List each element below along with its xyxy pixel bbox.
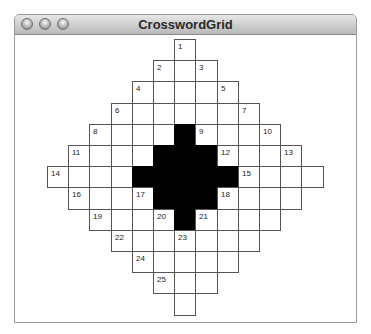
clue-number: 24 (136, 254, 145, 263)
grid-cell[interactable] (174, 293, 196, 316)
grid-cell[interactable] (174, 251, 196, 273)
grid-cell[interactable] (301, 166, 324, 188)
black-cell (217, 166, 239, 188)
clue-number: 16 (72, 190, 81, 199)
grid-cell[interactable] (238, 124, 260, 146)
clue-number: 15 (242, 169, 251, 178)
grid-cell[interactable] (153, 251, 175, 273)
grid-cell[interactable]: 9 (195, 124, 218, 146)
grid-cell[interactable] (238, 145, 260, 167)
grid-cell[interactable]: 1 (174, 39, 196, 61)
grid-cell[interactable] (280, 166, 302, 188)
grid-cell[interactable] (238, 230, 260, 252)
grid-cell[interactable]: 10 (259, 124, 281, 146)
clue-number: 25 (157, 275, 166, 284)
grid-cell[interactable] (259, 145, 281, 167)
grid-cell[interactable] (132, 124, 154, 146)
grid-cell[interactable] (195, 81, 218, 104)
grid-cell[interactable] (217, 251, 239, 273)
clue-number: 21 (199, 212, 208, 221)
clue-number: 11 (72, 148, 80, 157)
clue-number: 8 (93, 127, 97, 136)
grid-cell[interactable] (132, 230, 154, 252)
grid-cell[interactable]: 6 (111, 103, 133, 125)
grid-cell[interactable]: 25 (153, 272, 175, 294)
grid-cell[interactable]: 5 (217, 81, 239, 104)
grid-cell[interactable] (174, 81, 196, 104)
grid-cell[interactable]: 18 (217, 187, 239, 210)
grid-cell[interactable]: 23 (174, 230, 196, 252)
grid-cell[interactable] (111, 166, 133, 188)
clue-number: 6 (115, 106, 119, 115)
grid-cell[interactable] (132, 103, 154, 125)
title-bar[interactable]: CrosswordGrid (15, 15, 356, 35)
grid-cell[interactable] (89, 166, 112, 188)
grid-cell[interactable] (259, 187, 281, 210)
grid-cell[interactable]: 20 (153, 209, 175, 231)
black-cell (132, 166, 154, 188)
grid-cell[interactable] (153, 81, 175, 104)
grid-cell[interactable] (111, 209, 133, 231)
grid-cell[interactable] (259, 166, 281, 188)
grid-cell[interactable] (217, 124, 239, 146)
clue-number: 5 (221, 84, 225, 93)
grid-cell[interactable] (238, 187, 260, 210)
grid-cell[interactable] (89, 145, 112, 167)
grid-cell[interactable] (132, 145, 154, 167)
clue-number: 13 (284, 148, 293, 157)
grid-cell[interactable] (195, 230, 218, 252)
clue-number: 4 (136, 84, 140, 93)
grid-cell[interactable]: 7 (238, 103, 260, 125)
grid-cell[interactable]: 22 (111, 230, 133, 252)
black-cell (195, 166, 218, 188)
grid-cell[interactable] (89, 187, 112, 210)
clue-number: 10 (263, 127, 272, 136)
grid-cell[interactable]: 8 (89, 124, 112, 146)
grid-cell[interactable]: 3 (195, 60, 218, 82)
grid-cell[interactable] (111, 124, 133, 146)
grid-cell[interactable] (195, 103, 218, 125)
grid-cell[interactable]: 15 (238, 166, 260, 188)
grid-cell[interactable] (174, 60, 196, 82)
clue-number: 20 (157, 212, 166, 221)
grid-cell[interactable] (68, 166, 90, 188)
window-title: CrosswordGrid (15, 17, 356, 32)
grid-cell[interactable] (217, 103, 239, 125)
grid-cell[interactable] (217, 209, 239, 231)
grid-cell[interactable] (280, 187, 302, 210)
grid-cell[interactable]: 12 (217, 145, 239, 167)
grid-cell[interactable]: 17 (132, 187, 154, 210)
grid-cell[interactable] (153, 230, 175, 252)
grid-cell[interactable] (174, 272, 196, 294)
grid-cell[interactable]: 19 (89, 209, 112, 231)
clue-number: 1 (178, 42, 182, 51)
black-cell (153, 166, 175, 188)
clue-number: 18 (221, 190, 230, 199)
grid-cell[interactable] (195, 251, 218, 273)
grid-cell[interactable]: 4 (132, 81, 154, 104)
clue-number: 9 (199, 127, 203, 136)
grid-cell[interactable] (238, 209, 260, 231)
grid-cell[interactable]: 14 (47, 166, 69, 188)
grid-cell[interactable]: 21 (195, 209, 218, 231)
black-cell (174, 187, 196, 210)
clue-number: 12 (221, 148, 230, 157)
grid-cell[interactable]: 2 (153, 60, 175, 82)
grid-cell[interactable] (195, 272, 218, 294)
grid-cell[interactable] (259, 209, 281, 231)
grid-cell[interactable] (153, 103, 175, 125)
clue-number: 14 (51, 169, 60, 178)
grid-cell[interactable] (174, 103, 196, 125)
grid-cell[interactable] (111, 187, 133, 210)
grid-cell[interactable] (111, 145, 133, 167)
grid-cell[interactable] (153, 124, 175, 146)
grid-cell[interactable]: 13 (280, 145, 302, 167)
black-cell (153, 187, 175, 210)
grid-cell[interactable]: 24 (132, 251, 154, 273)
grid-cell[interactable]: 11 (68, 145, 90, 167)
clue-number: 23 (178, 233, 187, 242)
black-cell (174, 124, 196, 146)
grid-cell[interactable]: 16 (68, 187, 90, 210)
grid-cell[interactable] (217, 230, 239, 252)
grid-cell[interactable] (132, 209, 154, 231)
